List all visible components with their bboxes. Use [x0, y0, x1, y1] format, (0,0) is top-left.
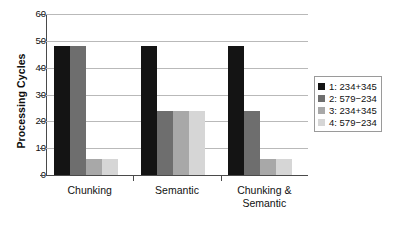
legend-item: 4: 579−234: [318, 116, 377, 128]
legend-item: 1: 234+345: [318, 80, 377, 92]
y-tick-mark: [40, 148, 45, 149]
bar: [86, 159, 102, 175]
plot-area: [46, 14, 308, 175]
y-tick-mark: [40, 95, 45, 96]
bar-group: [54, 14, 118, 175]
bar: [141, 46, 157, 175]
category-separator: [221, 176, 222, 181]
legend-swatch-icon: [318, 107, 325, 114]
bar: [276, 159, 292, 175]
y-tick-mark: [40, 175, 45, 176]
bar-chart: Processing Cycles 0102030405060 Chunking…: [0, 0, 403, 227]
bar-group: [228, 14, 292, 175]
gridline: [46, 175, 308, 176]
y-tick-mark: [40, 14, 45, 15]
bar: [54, 46, 70, 175]
y-tick-mark: [40, 121, 45, 122]
bar: [228, 46, 244, 175]
y-tick-mark: [40, 41, 45, 42]
legend-swatch-icon: [318, 119, 325, 126]
bar: [70, 46, 86, 175]
legend-item-label: 3: 234+345: [329, 105, 377, 116]
bar: [157, 111, 173, 175]
legend-item: 3: 234+345: [318, 104, 377, 116]
legend: 1: 234+3452: 579−2343: 234+3454: 579−234: [314, 76, 382, 132]
bar: [102, 159, 118, 175]
legend-item-label: 2: 579−234: [329, 93, 377, 104]
x-category-label: Chunking &Semantic: [204, 184, 324, 209]
bar: [260, 159, 276, 175]
bar: [173, 111, 189, 175]
legend-swatch-icon: [318, 83, 325, 90]
category-separator: [133, 176, 134, 181]
y-axis-ticks: 0102030405060: [0, 14, 46, 175]
bar: [189, 111, 205, 175]
y-tick-mark: [40, 68, 45, 69]
bar: [244, 111, 260, 175]
legend-item: 2: 579−234: [318, 92, 377, 104]
legend-item-label: 4: 579−234: [329, 117, 377, 128]
legend-swatch-icon: [318, 95, 325, 102]
bar-group: [141, 14, 205, 175]
legend-item-label: 1: 234+345: [329, 81, 377, 92]
